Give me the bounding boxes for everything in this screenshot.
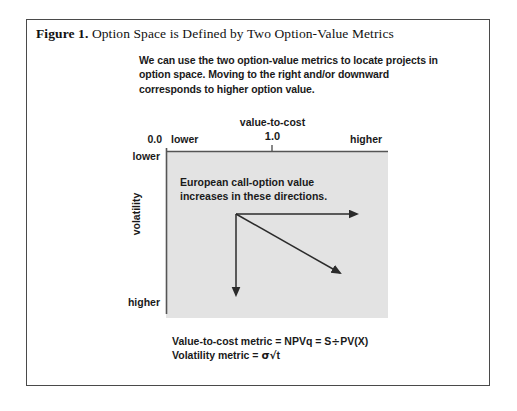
sigma-symbol: σ [261, 349, 269, 361]
annotation-text: European call-option value increases in … [180, 176, 340, 203]
formula-value-to-cost: Value-to-cost metric = NPVq = S÷PV(X) [172, 334, 368, 348]
formula-vtc-tail: PV(X) [340, 335, 368, 347]
formula-vtc-body: NPVq = S [284, 335, 331, 347]
formula-volatility: Volatility metric = σ√t [172, 348, 368, 362]
radical-symbol: √ [270, 349, 277, 361]
diagonal-arrow [236, 214, 340, 273]
formula-vtc-label: Value-to-cost metric = [172, 335, 284, 347]
formula-vol-tail: t [277, 349, 281, 361]
division-symbol: ÷ [331, 335, 340, 347]
figure-page: Figure 1. Option Space is Defined by Two… [0, 0, 517, 411]
formula-block: Value-to-cost metric = NPVq = S÷PV(X) Vo… [172, 334, 368, 362]
formula-vol-label: Volatility metric = [172, 349, 261, 361]
